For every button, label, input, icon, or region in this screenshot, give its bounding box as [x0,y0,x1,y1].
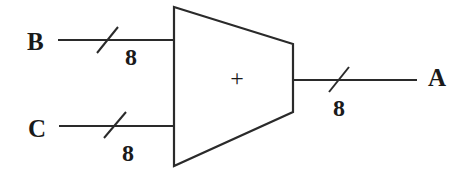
input-b-label: B [27,28,44,55]
operator-symbol: + [230,65,244,91]
input-b-bus: B 8 [27,27,174,70]
input-c-label: C [28,115,46,142]
input-c-width: 8 [122,140,134,166]
adder-diagram: + B 8 C 8 8 A [0,0,466,176]
input-b-width: 8 [125,44,137,70]
output-a-bus: 8 A [293,64,446,121]
output-a-label: A [428,64,446,91]
input-c-bus: C 8 [28,112,174,166]
output-a-width: 8 [333,95,345,121]
